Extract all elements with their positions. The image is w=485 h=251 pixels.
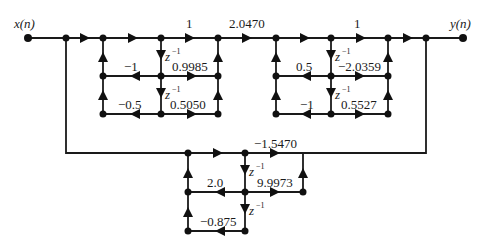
gain-label: −1 <box>300 97 314 112</box>
gain-label: −0.875 <box>200 214 237 229</box>
labels: x(n) y(n) 1 2.0470 −1 0.9985 −0.5 0.5050… <box>13 16 471 229</box>
node <box>158 111 165 118</box>
node <box>185 150 192 157</box>
node <box>273 111 280 118</box>
gain-label: −0.5 <box>118 97 142 112</box>
node <box>273 35 280 42</box>
gain-label: 0.5 <box>296 59 312 74</box>
node <box>100 73 107 80</box>
node <box>215 73 222 80</box>
arrow-right-icon <box>185 33 195 43</box>
gain-label: 2.0470 <box>229 16 265 31</box>
output-label: y(n) <box>448 16 471 31</box>
arrow-up-icon <box>383 52 393 62</box>
delay-label: z <box>248 203 254 218</box>
gain-label: 0.9985 <box>172 59 208 74</box>
node <box>100 111 107 118</box>
delay-exponent: −1 <box>172 85 181 94</box>
arrow-right-icon <box>213 148 223 158</box>
arrow-right-icon <box>356 33 366 43</box>
node <box>300 189 307 196</box>
delay-label: z <box>164 49 170 64</box>
bypass-path <box>66 38 426 153</box>
sum-node <box>423 35 430 42</box>
output-node <box>459 34 467 42</box>
node <box>215 35 222 42</box>
node <box>100 35 107 42</box>
delay-exponent: −1 <box>342 47 351 56</box>
arrow-up-icon <box>383 90 393 100</box>
node <box>273 73 280 80</box>
node <box>185 228 192 235</box>
gain-label: −2.0359 <box>338 59 381 74</box>
arrow-up-icon <box>183 168 193 178</box>
gain-label: 0.5050 <box>170 97 206 112</box>
input-label: x(n) <box>13 16 35 31</box>
arrow-up-icon <box>98 52 108 62</box>
arrow-right-icon <box>300 33 310 43</box>
gain-label: 1 <box>354 16 361 31</box>
arrow-right-icon <box>128 33 138 43</box>
arrow-right-icon <box>242 33 252 43</box>
delay-label: z <box>248 164 254 179</box>
node <box>158 73 165 80</box>
branch-node <box>63 35 70 42</box>
delay-exponent: −1 <box>342 85 351 94</box>
node <box>385 73 392 80</box>
delay-exponent: −1 <box>256 162 265 171</box>
delay-exponent: −1 <box>172 47 181 56</box>
arrow-up-icon <box>213 90 223 100</box>
arrow-up-icon <box>98 90 108 100</box>
arrow-up-icon <box>271 52 281 62</box>
gain-label: 2.0 <box>207 175 223 190</box>
arrow-right-icon <box>80 33 90 43</box>
node <box>328 73 335 80</box>
node <box>328 35 335 42</box>
delay-exponent: −1 <box>256 201 265 210</box>
node <box>158 35 165 42</box>
node <box>385 111 392 118</box>
arrow-up-icon <box>183 207 193 217</box>
gain-label: 1 <box>186 16 193 31</box>
node <box>385 35 392 42</box>
node <box>215 111 222 118</box>
node <box>242 189 249 196</box>
gain-label: −1.5470 <box>254 136 297 151</box>
node <box>242 150 249 157</box>
arrow-up-icon <box>213 52 223 62</box>
arrow-up-icon <box>271 90 281 100</box>
delay-label: z <box>164 87 170 102</box>
input-node <box>24 34 32 42</box>
delay-label: z <box>334 49 340 64</box>
delay-label: z <box>334 87 340 102</box>
gain-label: −1 <box>124 59 138 74</box>
signal-flow-diagram: x(n) y(n) 1 2.0470 −1 0.9985 −0.5 0.5050… <box>0 0 485 251</box>
arrow-right-icon <box>403 33 413 43</box>
node <box>242 228 249 235</box>
node <box>328 111 335 118</box>
arrow-up-icon <box>298 168 308 178</box>
gain-label: 9.9973 <box>257 175 293 190</box>
gain-label: 0.5527 <box>341 97 377 112</box>
node <box>185 189 192 196</box>
